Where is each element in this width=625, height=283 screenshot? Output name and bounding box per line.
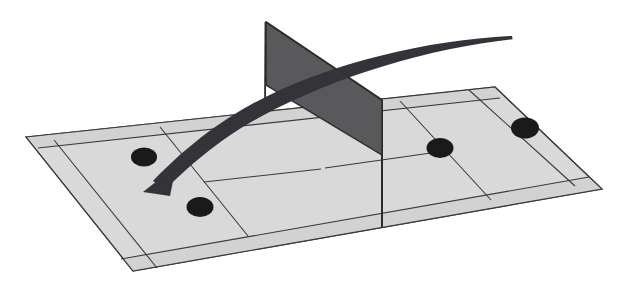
figure-canvas bbox=[0, 0, 625, 283]
ball-mark-1 bbox=[131, 148, 157, 167]
ball-mark-3 bbox=[427, 138, 454, 158]
ball-mark-2 bbox=[187, 197, 214, 217]
ball-mark-4 bbox=[511, 118, 539, 139]
tennis-court-diagram bbox=[0, 0, 625, 283]
